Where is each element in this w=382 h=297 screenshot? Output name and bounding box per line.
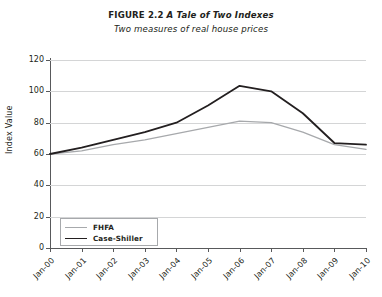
x-axis-tick-mark <box>82 248 83 252</box>
x-axis-tick-mark <box>303 248 304 252</box>
x-axis-tick-label-text: Jan-07 <box>253 256 278 281</box>
x-axis-tick-label-text: Jan-03 <box>126 256 151 281</box>
legend-item-case-shiller: Case-Shiller <box>65 233 153 244</box>
y-axis-tick-label: 0 <box>39 244 44 252</box>
legend-swatch-case-shiller-icon <box>65 238 87 239</box>
x-axis-tick-mark <box>50 248 51 252</box>
y-axis-tick-label: 120 <box>29 56 44 64</box>
y-axis-title: Index Value <box>6 105 14 154</box>
x-axis-tick-mark <box>334 248 335 252</box>
plot-area: 020406080100120 Jan-00Jan-01Jan-02Jan-03… <box>50 60 366 248</box>
page-title: A Tale of Two Indexes <box>167 10 274 20</box>
x-axis-tick-mark <box>113 248 114 252</box>
x-axis-tick-label-text: Jan-10 <box>348 256 373 281</box>
x-axis-tick-label-text: Jan-08 <box>284 256 309 281</box>
x-axis-tick-label-text: Jan-06 <box>221 256 246 281</box>
series-line-case-shiller <box>50 86 366 154</box>
figure-title-block: FIGURE 2.2 A Tale of Two Indexes Two mea… <box>0 8 382 36</box>
figure-title-line: FIGURE 2.2 A Tale of Two Indexes <box>0 8 382 22</box>
x-axis-tick-mark <box>240 248 241 252</box>
x-axis-tick-label-text: Jan-09 <box>316 256 341 281</box>
series-line-fhfa <box>50 121 366 154</box>
x-axis-tick-label-text: Jan-02 <box>95 256 120 281</box>
x-axis-tick-label-text: Jan-01 <box>63 256 88 281</box>
figure-subtitle: Two measures of real house prices <box>0 22 382 36</box>
x-axis-tick-mark <box>366 248 367 252</box>
legend-swatch-fhfa-icon <box>65 227 87 228</box>
x-axis-tick-label-text: Jan-00 <box>32 256 57 281</box>
x-axis-tick-mark <box>208 248 209 252</box>
legend-label-fhfa: FHFA <box>93 224 114 232</box>
y-axis-tick-label: 60 <box>34 150 44 158</box>
y-axis-tick-label: 20 <box>34 213 44 221</box>
x-axis-tick-mark <box>271 248 272 252</box>
x-axis-tick-mark <box>145 248 146 252</box>
x-axis-tick-mark <box>176 248 177 252</box>
figure-number: FIGURE 2.2 <box>108 10 163 20</box>
legend-item-fhfa: FHFA <box>65 222 153 233</box>
figure-container: FIGURE 2.2 A Tale of Two Indexes Two mea… <box>0 0 382 297</box>
y-axis-tick-label: 80 <box>34 119 44 127</box>
y-axis-tick-label: 40 <box>34 181 44 189</box>
x-axis-tick-label-text: Jan-04 <box>158 256 183 281</box>
y-axis-tick-label: 100 <box>29 87 44 95</box>
x-axis-tick-label-text: Jan-05 <box>190 256 215 281</box>
chart-legend: FHFA Case-Shiller <box>60 218 158 246</box>
legend-label-case-shiller: Case-Shiller <box>93 235 143 243</box>
